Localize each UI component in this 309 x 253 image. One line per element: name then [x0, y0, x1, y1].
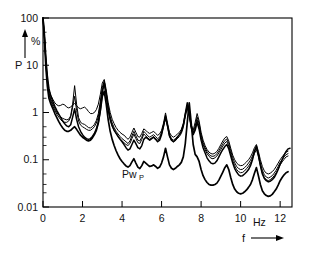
pwp-curve-label: Pw [122, 168, 137, 180]
y-tick-label-2: 1 [32, 106, 38, 118]
y-axis-unit-label: % [31, 35, 40, 47]
y-tick-label-3: 10 [26, 59, 38, 71]
x-tick-label-5: 10 [235, 212, 247, 224]
y-tick-label-0: 0.01 [18, 201, 39, 213]
x-tick-label-2: 4 [119, 212, 125, 224]
y-tick-label-1: 0.1 [23, 153, 38, 165]
x-tick-label-6: 12 [274, 212, 286, 224]
y-axis-name-label: P [15, 59, 22, 71]
x-axis-unit-label: Hz [253, 216, 266, 228]
x-tick-label-0: 0 [40, 212, 46, 224]
chart-figure: 0.010.1110100 024681012 % P Hz f PwP [0, 0, 309, 253]
x-tick-label-1: 2 [80, 212, 86, 224]
x-tick-label-3: 6 [159, 212, 165, 224]
y-tick-label-4: 100 [20, 12, 38, 24]
power-spectrum-svg: 0.010.1110100 024681012 % P Hz f PwP [0, 0, 309, 253]
x-tick-label-4: 8 [198, 212, 204, 224]
pwp-curve-label-subscript: P [139, 173, 144, 182]
